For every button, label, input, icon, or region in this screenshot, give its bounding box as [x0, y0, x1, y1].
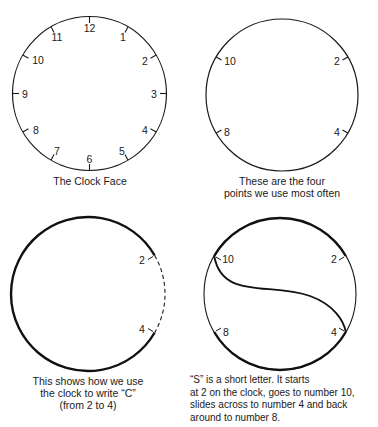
caption-four-points: These are the four points we use most of…	[212, 175, 352, 199]
hour-3: 3	[151, 88, 157, 100]
s-bottom-arc	[214, 332, 346, 370]
hour-6: 6	[87, 153, 93, 165]
hour-2: 2	[139, 254, 145, 266]
caption-line: These are the four	[212, 175, 352, 187]
hour-1: 1	[120, 31, 126, 43]
caption-line: The Clock Face	[30, 175, 150, 187]
caption-letter-s: “S” is a short letter. It starts at 2 on…	[190, 374, 376, 424]
caption-line: the clock to write “C”	[28, 387, 148, 399]
hour-8: 8	[223, 326, 229, 338]
c-stroke	[11, 217, 155, 371]
hour-12: 12	[84, 22, 96, 34]
hour-9: 9	[22, 88, 28, 100]
caption-letter-c: This shows how we use the clock to write…	[28, 375, 148, 411]
caption-line: points we use most often	[212, 187, 352, 199]
caption-line: slides across to number 4 and back	[190, 399, 376, 412]
hour-10: 10	[222, 253, 234, 265]
caption-line: at 2 on the clock, goes to number 10,	[190, 387, 376, 400]
s-top-arc	[214, 218, 346, 256]
hour-5: 5	[119, 145, 125, 157]
caption-line: “S” is a short letter. It starts	[190, 374, 376, 387]
hour-7: 7	[54, 145, 60, 157]
hour-2: 2	[331, 253, 337, 265]
clock-face-diagram: 12 1 2 3 4 5 6 7 8 9 10 11	[13, 17, 167, 171]
hour-4: 4	[331, 326, 337, 338]
clock-diagrams: 12 1 2 3 4 5 6 7 8 9 10 11 2 4 8 10	[0, 0, 378, 427]
hour-11: 11	[52, 31, 63, 43]
hour-4: 4	[334, 126, 340, 138]
hour-2: 2	[142, 55, 148, 67]
letter-c-diagram: 2 4	[11, 217, 165, 371]
caption-line: around to number 8.	[190, 412, 376, 425]
hour-10: 10	[224, 55, 236, 67]
caption-line: This shows how we use	[28, 375, 148, 387]
s-middle-curve	[214, 256, 346, 332]
four-points-diagram: 2 4 8 10	[206, 19, 358, 171]
hour-2: 2	[334, 55, 340, 67]
c-gap-dashed	[155, 256, 165, 333]
hour-ticks	[13, 17, 167, 171]
letter-s-diagram: 2 4 8 10	[204, 218, 356, 370]
hour-8: 8	[224, 126, 230, 138]
hour-4: 4	[139, 323, 145, 335]
hour-10: 10	[32, 54, 44, 66]
hour-4: 4	[142, 124, 148, 136]
caption-clock-face: The Clock Face	[30, 175, 150, 187]
caption-line: (from 2 to 4)	[28, 399, 148, 411]
hour-8: 8	[33, 124, 39, 136]
